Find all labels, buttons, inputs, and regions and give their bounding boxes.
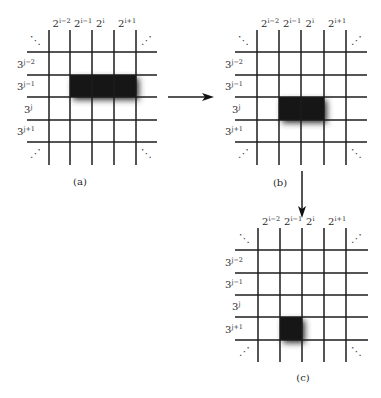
highlighted-region bbox=[70, 75, 136, 97]
ellipsis-top-left: ⋱ bbox=[239, 232, 250, 245]
row-label: 3j−1 bbox=[17, 80, 35, 92]
arrow-b-to-c bbox=[298, 171, 306, 218]
arrow-a-to-b bbox=[168, 93, 214, 101]
panel-b: 2i−22i−12i2i+13j−23j−13j3j+1⋱⋰⋰⋱(b) bbox=[225, 17, 367, 188]
column-label: 2i+1 bbox=[328, 215, 346, 227]
ellipsis-top-left: ⋱ bbox=[30, 34, 41, 47]
row-label: 3j+1 bbox=[17, 125, 35, 137]
row-label: 3j−2 bbox=[17, 58, 35, 70]
ellipsis-bottom-right: ⋱ bbox=[141, 147, 152, 160]
highlighted-region bbox=[280, 317, 302, 340]
column-label: 2i+1 bbox=[118, 17, 136, 29]
column-label: 2i bbox=[96, 17, 104, 29]
column-label: 2i−2 bbox=[261, 17, 279, 29]
row-label: 3j+1 bbox=[225, 125, 243, 137]
row-label: 3j−2 bbox=[225, 256, 243, 268]
ellipsis-top-left: ⋱ bbox=[238, 34, 249, 47]
ellipsis-bottom-left: ⋰ bbox=[239, 345, 250, 358]
ellipsis-bottom-right: ⋱ bbox=[351, 147, 362, 160]
column-label: 2i−1 bbox=[284, 215, 302, 227]
row-label: 3j bbox=[24, 103, 32, 115]
ellipsis-bottom-right: ⋱ bbox=[351, 345, 362, 358]
grid-refinement-diagram: 2i−22i−12i2i+13j−23j−13j3j+1⋱⋰⋰⋱(a)2i−22… bbox=[0, 0, 381, 398]
column-label: 2i−1 bbox=[74, 17, 92, 29]
ellipsis-top-right: ⋰ bbox=[351, 34, 362, 47]
ellipsis-top-right: ⋰ bbox=[141, 34, 152, 47]
column-label: 2i−2 bbox=[53, 17, 71, 29]
row-label: 3j−1 bbox=[225, 80, 243, 92]
panel-c: 2i−22i−12i2i+13j−23j−13j3j+1⋱⋰⋰⋱(c) bbox=[225, 215, 368, 383]
row-label: 3j−1 bbox=[225, 278, 243, 290]
ellipsis-top-right: ⋰ bbox=[351, 232, 362, 245]
panel-caption: (c) bbox=[296, 372, 310, 383]
row-label: 3j−2 bbox=[225, 58, 243, 70]
panel-caption: (a) bbox=[73, 176, 87, 187]
row-label: 3j bbox=[232, 300, 240, 312]
row-label: 3j+1 bbox=[225, 323, 243, 335]
ellipsis-bottom-left: ⋰ bbox=[238, 147, 249, 160]
column-label: 2i−1 bbox=[283, 17, 301, 29]
column-label: 2i bbox=[306, 215, 314, 227]
row-label: 3j bbox=[232, 103, 240, 115]
ellipsis-bottom-left: ⋰ bbox=[30, 147, 41, 160]
panel-a: 2i−22i−12i2i+13j−23j−13j3j+1⋱⋰⋰⋱(a) bbox=[17, 17, 157, 187]
column-label: 2i+1 bbox=[328, 17, 346, 29]
panel-caption: (b) bbox=[273, 177, 287, 188]
column-label: 2i−2 bbox=[262, 215, 280, 227]
column-label: 2i bbox=[306, 17, 314, 29]
